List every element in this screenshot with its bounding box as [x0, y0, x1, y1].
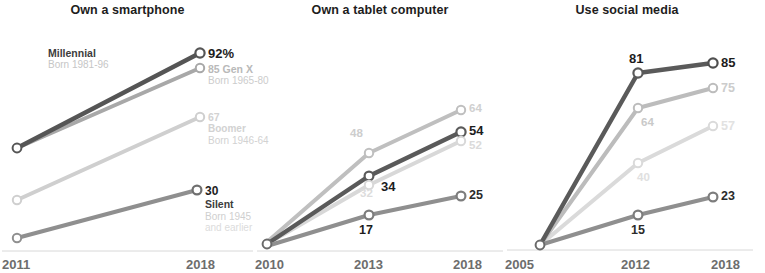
line-boomer [540, 126, 713, 245]
line-silent [17, 190, 197, 238]
marker-silent-2012 [634, 211, 643, 220]
line-silent [267, 196, 461, 246]
series-label-silent-sub1: Born 1945 [205, 211, 252, 223]
marker-genx-2018 [457, 106, 465, 114]
value-genx-2013: 48 [350, 128, 363, 140]
value-genx-2018: 75 [721, 82, 735, 95]
xtick-2013: 2013 [354, 257, 383, 272]
value-genx-2012: 64 [641, 117, 654, 129]
marker-silent-2018 [709, 193, 718, 202]
marker-silent-2011 [13, 234, 21, 242]
marker-genx-2018 [709, 84, 717, 92]
marker-boomer-2012 [634, 159, 642, 167]
marker-start-2010 [263, 240, 272, 249]
marker-millennial-2012 [633, 68, 642, 77]
series-label-silent-sub2: and earlier [205, 222, 252, 234]
marker-boomer-2018 [196, 113, 204, 121]
value-boomer-2018: 57 [721, 120, 735, 133]
marker-millennial-2013 [365, 172, 374, 181]
marker-millennial-2018 [708, 58, 717, 67]
value-boomer-2012: 40 [637, 172, 650, 184]
value-silent-2012: 15 [631, 224, 645, 237]
plot-tablet [255, 0, 505, 273]
xtick-2018: 2018 [453, 257, 482, 272]
marker-millennial-2018 [456, 127, 465, 136]
marker-silent-2018 [193, 186, 202, 195]
xtick-2011: 2011 [2, 257, 30, 272]
value-millennial-2018: 85 [721, 56, 735, 69]
marker-genx-2013 [365, 149, 373, 157]
marker-genx-2018 [196, 64, 204, 72]
marker-millennial-2018 [195, 48, 204, 57]
xtick-2010: 2010 [255, 257, 284, 272]
series-label-millennial-name: Millennial [48, 47, 96, 59]
series-label-millennial-sub: Born 1981-96 [48, 59, 109, 71]
panel-use-social-media: Use social media 81 64 40 15 85 7 [505, 0, 765, 273]
marker-silent-2013 [365, 211, 374, 220]
marker-boomer-2018 [457, 137, 465, 145]
marker-start-2005 [536, 241, 545, 250]
marker-silent-2018 [457, 192, 466, 201]
value-silent-2018: 23 [721, 190, 735, 203]
value-boomer-2018: 52 [469, 140, 482, 152]
marker-genx-2012 [634, 104, 642, 112]
axis-labels-social-media: 2005 2012 2018 [505, 251, 765, 273]
xtick-2018: 2018 [711, 257, 740, 272]
axis-labels-smartphone: 2011 2018 [0, 251, 255, 273]
axis-labels-tablet: 2010 2013 2018 [255, 251, 505, 273]
value-genx-2018: 85 Gen X [208, 63, 253, 75]
xtick-2005: 2005 [505, 257, 534, 272]
value-boomer-2013: 32 [360, 188, 373, 200]
marker-boomer-2011 [13, 196, 21, 204]
value-silent-2018: 30 [205, 184, 218, 198]
marker-boomer-2018 [709, 122, 717, 130]
marker-millennial-2011 [13, 144, 22, 153]
panel-own-a-smartphone: Own a smartphone Millennial Born 1981 [0, 0, 255, 273]
value-millennial-2012: 81 [629, 52, 643, 65]
value-millennial-2013: 34 [381, 180, 395, 193]
value-millennial-2018: 54 [469, 124, 483, 137]
xtick-2018: 2018 [186, 257, 215, 272]
series-label-silent: 30 Silent Born 1945 and earlier [205, 184, 252, 234]
value-millennial-2018: 92% [208, 47, 234, 60]
line-boomer [17, 117, 200, 200]
series-label-silent-name: Silent [205, 198, 252, 210]
value-silent-2013: 17 [359, 224, 373, 237]
panel-own-a-tablet-computer: Own a tablet computer 64 54 52 25 48 [255, 0, 505, 273]
value-boomer-2018: 67 [208, 111, 220, 123]
value-silent-2018: 25 [469, 189, 483, 202]
series-label-millennial: Millennial Born 1981-96 [48, 47, 109, 71]
value-genx-2018: 64 [469, 103, 482, 115]
xtick-2012: 2012 [621, 257, 650, 272]
generational-tech-adoption-chart: Own a smartphone Millennial Born 1981 [0, 0, 765, 273]
